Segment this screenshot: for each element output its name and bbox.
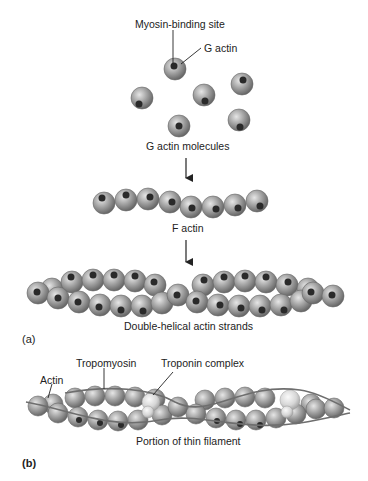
actin-diagram: [0, 0, 368, 481]
caption-f-actin: F actin: [172, 222, 204, 234]
g-actin-leader: [181, 48, 201, 64]
panel-label-b: (b): [22, 457, 36, 469]
caption-double-helical: Double-helical actin strands: [124, 320, 253, 332]
label-myosin-binding-site: Myosin-binding site: [135, 18, 225, 30]
caption-g-actin-molecules: G actin molecules: [146, 140, 229, 152]
double-helical-strands: [27, 269, 344, 317]
thin-filament: [26, 386, 350, 431]
f-actin-chain: [93, 188, 268, 218]
g-actin-molecules: [131, 58, 253, 137]
label-actin: Actin: [40, 374, 63, 386]
panel-label-a: (a): [22, 333, 35, 345]
label-tropomyosin: Tropomyosin: [76, 357, 136, 369]
label-troponin-complex: Troponin complex: [161, 357, 244, 369]
label-g-actin: G actin: [204, 42, 237, 54]
troponin-leader: [153, 372, 173, 395]
caption-thin-filament: Portion of thin filament: [136, 435, 240, 447]
